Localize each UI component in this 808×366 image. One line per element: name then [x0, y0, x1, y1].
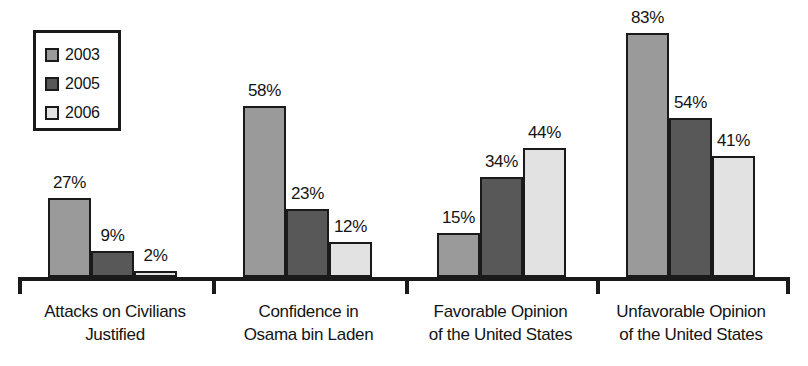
category-label-line: of the United States	[596, 323, 786, 346]
bar-2006-group1[interactable]	[329, 242, 372, 277]
bar-value-label: 9%	[79, 227, 146, 244]
bar-2006-group3[interactable]	[712, 156, 755, 277]
category-label-line: of the United States	[405, 323, 596, 346]
bar-value-label: 27%	[36, 174, 103, 191]
bar-value-label: 83%	[614, 9, 681, 26]
axis-tick-0	[18, 281, 22, 294]
axis-tick-3	[596, 281, 600, 294]
bar-2003-group3[interactable]	[626, 33, 669, 277]
bar-value-label: 54%	[657, 94, 724, 111]
category-label-1: Confidence inOsama bin Laden	[212, 300, 405, 346]
bar-value-label: 23%	[274, 185, 341, 202]
category-label-line: Favorable Opinion	[405, 300, 596, 323]
category-label-3: Unfavorable Opinionof the United States	[596, 300, 786, 346]
category-label-line: Unfavorable Opinion	[596, 300, 786, 323]
axis-tick-4	[786, 281, 790, 294]
category-label-2: Favorable Opinionof the United States	[405, 300, 596, 346]
bar-value-label: 41%	[700, 132, 767, 149]
bar-value-label: 12%	[317, 218, 384, 235]
bar-value-label: 2%	[122, 247, 189, 264]
bar-value-label: 58%	[231, 82, 298, 99]
bar-value-label: 44%	[511, 124, 578, 141]
chart-page: 200320052006 27%9%2%58%23%12%15%34%44%83…	[0, 0, 808, 366]
category-label-line: Confidence in	[212, 300, 405, 323]
axis-tick-2	[405, 281, 409, 294]
category-label-line: Osama bin Laden	[212, 323, 405, 346]
bar-2005-group2[interactable]	[480, 177, 523, 277]
axis-tick-1	[212, 281, 216, 294]
category-label-0: Attacks on CiviliansJustified	[18, 300, 212, 346]
category-label-line: Attacks on Civilians	[18, 300, 212, 323]
bar-2006-group2[interactable]	[523, 148, 566, 277]
x-axis-line	[18, 277, 790, 281]
category-label-line: Justified	[18, 323, 212, 346]
bar-2003-group2[interactable]	[437, 233, 480, 277]
